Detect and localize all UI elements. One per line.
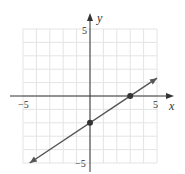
coordinate-plane: y x −5 5 5 −5	[0, 0, 185, 174]
x-tick-max: 5	[153, 99, 158, 110]
data-point	[87, 120, 93, 126]
data-point	[127, 93, 133, 99]
plot-line	[30, 78, 157, 163]
x-tick-min: −5	[18, 99, 29, 110]
y-tick-min: −5	[75, 158, 86, 169]
y-tick-max: 5	[82, 25, 87, 36]
y-axis-label: y	[96, 11, 103, 25]
y-axis-arrow-icon	[87, 13, 93, 21]
x-axis-label: x	[168, 99, 175, 113]
line-arrow-icon	[150, 78, 157, 84]
axes	[10, 13, 174, 172]
